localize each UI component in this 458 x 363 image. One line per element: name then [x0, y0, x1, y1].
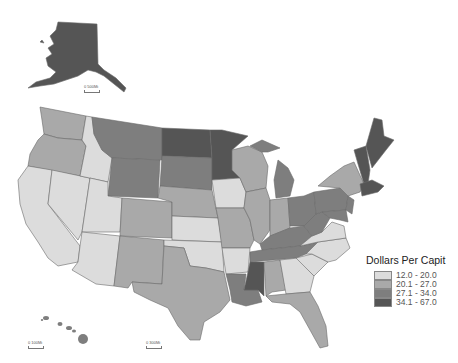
legend-label: 34.1 - 67.0 [396, 298, 437, 307]
state-nm [114, 236, 164, 288]
state-sd [160, 156, 212, 190]
state-wy [108, 158, 160, 198]
hawaii-scale-bar: 0 100Mi [28, 340, 44, 349]
state-mi [274, 160, 294, 198]
legend-item: 34.1 - 67.0 [366, 298, 458, 307]
alaska-scale-label: 0 500Mi [84, 84, 100, 89]
state-nd [162, 128, 212, 158]
state-ks [172, 216, 222, 242]
hawaii-scale-label: 0 100Mi [28, 340, 44, 345]
state-co [120, 198, 172, 238]
legend-swatch [374, 298, 392, 307]
alaska-scale-bar: 0 500Mi [84, 84, 100, 93]
state-hi [41, 316, 88, 344]
legend-swatch [374, 289, 392, 298]
conus-scale-bar: 0 300Mi [146, 340, 162, 349]
choropleth-map [0, 0, 458, 363]
state-fl [266, 292, 328, 348]
map-legend: Dollars Per Capit 12.0 - 20.0 20.1 - 27.… [366, 254, 458, 307]
state-az [72, 232, 120, 286]
legend-swatch [374, 280, 392, 289]
state-me [366, 118, 394, 168]
state-ia [212, 178, 246, 208]
state-ak [28, 22, 126, 92]
conus-scale-label: 0 300Mi [146, 340, 162, 345]
state-ar [222, 248, 250, 274]
legend-title: Dollars Per Capit [366, 254, 458, 266]
legend-swatch [374, 271, 392, 280]
